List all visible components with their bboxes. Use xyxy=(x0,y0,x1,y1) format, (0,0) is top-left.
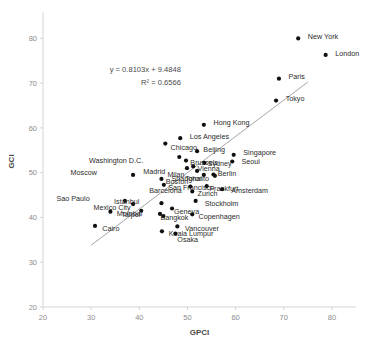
data-point xyxy=(159,177,163,181)
data-point xyxy=(213,174,217,178)
data-point xyxy=(93,224,97,228)
x-tick-label: 40 xyxy=(135,313,143,322)
data-point-label: Vienna xyxy=(198,164,220,173)
x-tick-label: 50 xyxy=(183,313,191,322)
y-axis-title: GCI xyxy=(7,154,16,168)
data-point xyxy=(184,159,188,163)
data-point xyxy=(131,202,135,206)
data-point xyxy=(177,155,181,159)
data-point-label: Seoul xyxy=(241,157,260,166)
x-axis-title: GPCI xyxy=(190,328,210,337)
data-point xyxy=(131,173,135,177)
y-tick-label: 70 xyxy=(29,79,37,88)
data-point xyxy=(185,166,189,170)
data-point xyxy=(220,187,224,191)
data-point xyxy=(296,36,300,40)
data-point-label: Zurich xyxy=(198,189,218,198)
data-point-label: New York xyxy=(308,32,339,41)
data-point xyxy=(191,164,195,168)
data-point-label: Madrid xyxy=(143,167,165,176)
x-tick-label: 20 xyxy=(39,313,47,322)
r-squared-label: R² = 0.6566 xyxy=(141,78,181,87)
data-point xyxy=(202,123,206,127)
scatter-chart: 2030405060708020304050607080GPCIGCIy = 0… xyxy=(0,0,366,348)
data-point-label: London xyxy=(335,49,359,58)
data-point-label: Washington D.C. xyxy=(89,156,143,165)
data-point xyxy=(195,149,199,153)
data-point xyxy=(178,136,182,140)
data-point-label: Osaka xyxy=(177,235,198,244)
y-tick-label: 50 xyxy=(29,168,37,177)
data-point xyxy=(108,210,112,214)
data-point xyxy=(175,224,179,228)
data-point xyxy=(160,229,164,233)
data-point-label: Beijing xyxy=(203,145,225,154)
y-tick-label: 80 xyxy=(29,34,37,43)
x-tick-label: 30 xyxy=(87,313,95,322)
data-point-label: Mumbai xyxy=(117,209,143,218)
data-point xyxy=(324,53,328,57)
data-point-label: Los Angeles xyxy=(190,132,230,141)
data-point-label: Hong Kong xyxy=(213,118,249,127)
data-point-label: Stockholm xyxy=(205,199,239,208)
data-point-label: Amsterdam xyxy=(231,186,268,195)
x-tick-label: 80 xyxy=(328,313,336,322)
data-point xyxy=(161,214,165,218)
y-tick-label: 40 xyxy=(29,213,37,222)
data-point-label: Barcelona xyxy=(149,186,181,195)
data-point-label: Copenhagen xyxy=(199,212,240,221)
y-tick-label: 60 xyxy=(29,124,37,133)
data-point xyxy=(188,184,192,188)
data-point-label: Tokyo xyxy=(286,94,305,103)
data-point-label: Sao Paulo xyxy=(57,194,90,203)
data-point-label: Toronto xyxy=(185,174,209,183)
data-point xyxy=(159,201,163,205)
data-point-label: Cairo xyxy=(102,224,119,233)
x-tick-label: 60 xyxy=(231,313,239,322)
data-point xyxy=(194,199,198,203)
data-point xyxy=(274,99,278,103)
data-point xyxy=(195,169,199,173)
data-point xyxy=(232,153,236,157)
data-point xyxy=(190,189,194,193)
data-point xyxy=(277,77,281,81)
data-point xyxy=(163,141,167,145)
data-point xyxy=(190,212,194,216)
x-tick-label: 70 xyxy=(280,313,288,322)
data-point-label: Paris xyxy=(289,72,306,81)
data-point-label: Chicago xyxy=(171,143,197,152)
regression-equation-label: y = 0.8103x + 9.4848 xyxy=(110,65,181,74)
data-point xyxy=(205,184,209,188)
plot-area: 2030405060708020304050607080GPCIGCIy = 0… xyxy=(0,0,366,348)
data-point-label: Berlin xyxy=(218,169,236,178)
y-tick-label: 30 xyxy=(29,258,37,267)
y-tick-label: 20 xyxy=(29,303,37,312)
data-point-label: Moscow xyxy=(71,168,98,177)
